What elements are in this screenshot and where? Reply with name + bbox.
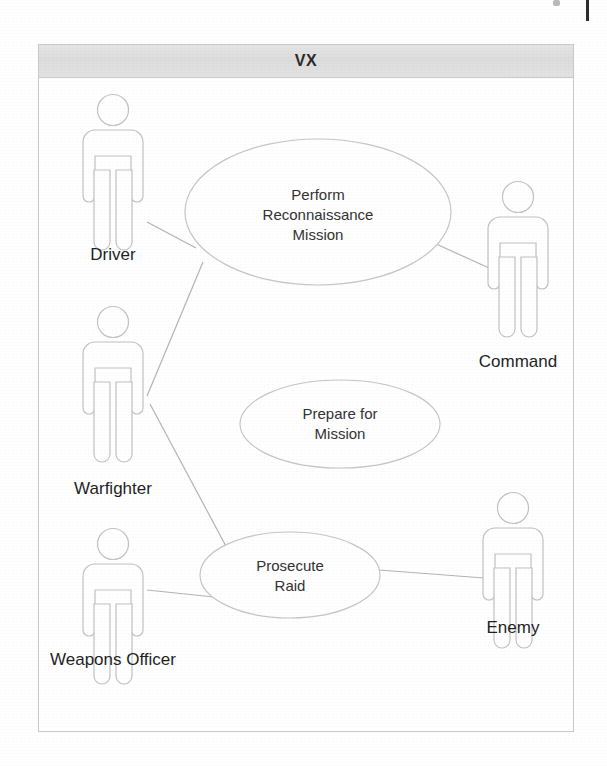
diagram-canvas: VX bbox=[0, 0, 607, 766]
system-title: VX bbox=[295, 52, 317, 70]
use-case-label-prosecute-raid: Prosecute Raid bbox=[190, 556, 390, 596]
use-case-label-prepare-for-mission: Prepare for Mission bbox=[240, 404, 440, 444]
actor-label-command: Command bbox=[418, 352, 607, 372]
actor-label-enemy: Enemy bbox=[413, 618, 607, 638]
system-title-bar: VX bbox=[39, 45, 573, 78]
actor-label-warfighter: Warfighter bbox=[13, 479, 213, 499]
use-case-label-perform-reconnaissance-mission: Perform Reconnaissance Mission bbox=[218, 185, 418, 245]
scan-artifact-bar bbox=[586, 0, 589, 21]
actor-label-weapons-officer: Weapons Officer bbox=[13, 650, 213, 670]
scan-artifact-dot bbox=[553, 0, 560, 6]
actor-label-driver: Driver bbox=[13, 245, 213, 265]
